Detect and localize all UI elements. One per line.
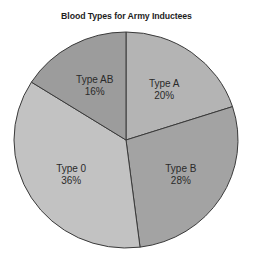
slice-label: Type B: [165, 163, 196, 174]
slice-percent: 36%: [61, 175, 81, 186]
slice-percent: 16%: [85, 86, 105, 97]
slice-label: Type A: [149, 78, 180, 89]
slice-percent: 28%: [171, 175, 191, 186]
slice-percent: 20%: [154, 90, 174, 101]
slice-label: Type AB: [76, 74, 114, 85]
pie-chart: Type A20%Type B28%Type 036%Type AB16%: [0, 0, 253, 262]
slice-label: Type 0: [56, 163, 86, 174]
pie-slices: [14, 32, 238, 248]
